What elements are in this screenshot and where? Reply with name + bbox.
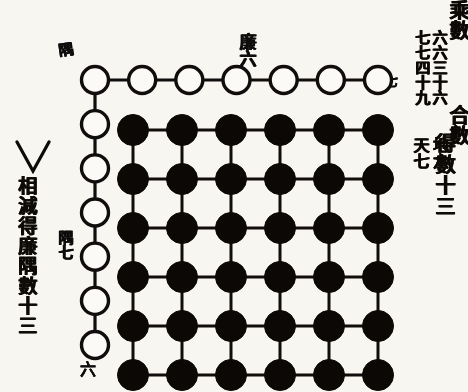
counter-filled <box>118 360 149 391</box>
counter-filled <box>167 164 198 195</box>
counter-filled <box>314 360 345 391</box>
counter-filled <box>314 213 345 244</box>
counter-open-left-lian <box>82 111 109 138</box>
counter-open-top-lian <box>223 67 250 94</box>
counter-filled <box>118 262 149 293</box>
counter-filled <box>265 360 296 391</box>
counter-filled <box>216 360 247 391</box>
counter-filled <box>216 213 247 244</box>
counter-filled <box>118 213 149 244</box>
counter-filled <box>167 360 198 391</box>
counter-filled <box>167 213 198 244</box>
counter-figure <box>0 0 468 392</box>
counter-open-left-lian <box>82 243 109 270</box>
counter-filled <box>314 262 345 293</box>
counter-filled <box>167 311 198 342</box>
counter-open-left-lian <box>82 332 109 359</box>
counter-filled <box>216 164 247 195</box>
counter-filled <box>314 311 345 342</box>
counter-filled <box>363 164 394 195</box>
counter-filled <box>216 262 247 293</box>
counter-open-top-lian <box>129 67 156 94</box>
counter-filled <box>265 262 296 293</box>
counter-filled <box>363 360 394 391</box>
counter-filled <box>265 311 296 342</box>
counter-open-top-lian <box>365 67 392 94</box>
counter-open-top-lian <box>317 67 344 94</box>
counter-filled <box>363 213 394 244</box>
counter-filled <box>216 115 247 146</box>
counter-filled <box>265 115 296 146</box>
counter-open-corner-yu <box>82 67 109 94</box>
counter-filled <box>265 213 296 244</box>
counter-filled <box>363 311 394 342</box>
counter-open-left-lian <box>82 199 109 226</box>
counter-filled <box>314 164 345 195</box>
counter-filled <box>314 115 345 146</box>
counter-filled <box>363 115 394 146</box>
diagram-page: 乘數 六六三十六 七七四十九 相減得廉隅數十三 合數 地六 天七 得數十三 廉六… <box>0 0 468 392</box>
counter-filled <box>167 115 198 146</box>
counter-filled <box>118 311 149 342</box>
counter-filled <box>265 164 296 195</box>
counter-filled <box>363 262 394 293</box>
counter-filled <box>167 262 198 293</box>
counter-filled <box>118 164 149 195</box>
counter-open-top-lian <box>176 67 203 94</box>
counter-filled <box>216 311 247 342</box>
counter-open-top-lian <box>270 67 297 94</box>
counter-open-left-lian <box>82 287 109 314</box>
counter-filled <box>118 115 149 146</box>
counter-open-left-lian <box>82 155 109 182</box>
